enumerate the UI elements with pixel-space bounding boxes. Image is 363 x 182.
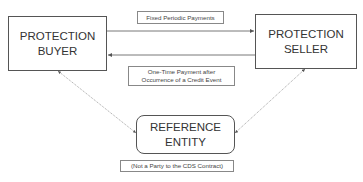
reference-note-label: (Not a Party to the CDS Contract) [120,160,234,172]
fixed-payments-label: Fixed Periodic Payments [137,11,224,24]
seller-reference-connector [235,69,305,133]
protection-buyer-node: PROTECTION BUYER [8,16,107,71]
buyer-reference-connector [58,71,136,133]
reference-entity-node: REFERENCE ENTITY [136,115,235,154]
one-time-payment-label: One-Time Payment after Occurrence of a C… [128,66,235,86]
protection-buyer-label: PROTECTION BUYER [20,29,95,59]
reference-entity-label: REFERENCE ENTITY [150,120,221,150]
protection-seller-label: PROTECTION SELLER [268,27,343,57]
protection-seller-node: PROTECTION SELLER [255,14,357,69]
